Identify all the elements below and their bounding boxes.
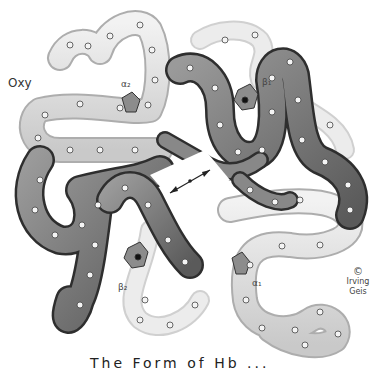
subunit-label-beta1: β₁ [262,77,271,87]
subunit-label-alpha1: α₁ [252,278,262,288]
artist-signature: Irving Geis [337,277,379,297]
state-label: Oxy [8,76,32,90]
copyright-mark: © Irving Geis [337,267,379,297]
copyright-symbol: © [353,266,363,277]
subunit-label-alpha2: α₂ [121,79,131,89]
figure-caption: The Form of Hb ... [90,355,269,371]
subunit-label-beta2: β₂ [118,282,127,292]
